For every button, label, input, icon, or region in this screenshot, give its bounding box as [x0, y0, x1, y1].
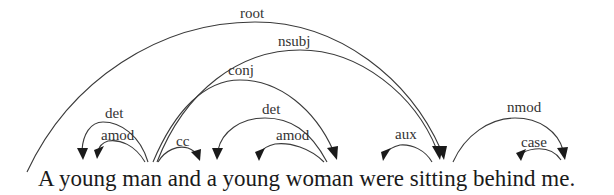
- arc-label-nsubj: nsubj: [278, 33, 311, 49]
- arc-label-conj: conj: [228, 62, 254, 78]
- arc-label-aux: aux: [395, 126, 417, 142]
- arrowhead-icon: [381, 148, 391, 161]
- arc-label-amod-right: amod: [276, 127, 310, 143]
- arc-label-det-left: det: [105, 105, 124, 121]
- arc-label-root: root: [240, 5, 265, 21]
- arc-nmod: nmod: [453, 99, 568, 162]
- arc-case: case: [516, 134, 561, 161]
- arc-label-amod-left: amod: [101, 127, 135, 143]
- arc-label-case: case: [521, 134, 547, 150]
- arrowhead-icon: [516, 149, 526, 161]
- arc-det-woman-a: det: [212, 101, 327, 162]
- sentence-text: A young man and a young woman were sitti…: [38, 166, 575, 191]
- arc-label-det-right: det: [262, 101, 281, 117]
- arc-root: root: [27, 5, 447, 172]
- arc-label-nmod: nmod: [507, 99, 542, 115]
- arrowhead-icon: [255, 148, 265, 161]
- arc-aux: aux: [381, 126, 432, 162]
- arrowhead-icon: [432, 146, 443, 160]
- arrowhead-icon: [557, 147, 568, 160]
- arc-label-cc: cc: [176, 133, 190, 149]
- arrowhead-icon: [77, 148, 88, 160]
- arrowhead-icon: [327, 146, 338, 160]
- dependency-diagram: root nsubj conj det amod cc det: [0, 0, 614, 195]
- arc-amod-woman-young: amod: [255, 127, 324, 162]
- arrowhead-icon: [212, 148, 223, 160]
- arc-amod-man-young: amod: [94, 127, 145, 162]
